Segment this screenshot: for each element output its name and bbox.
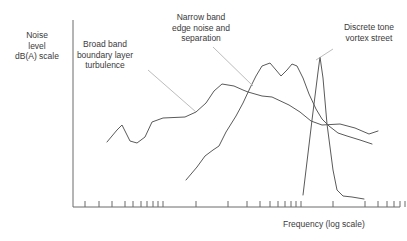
annotation-narrowband: Narrow band edge noise and separation	[155, 12, 247, 44]
noise-spectrum-chart: Noise level dB(A) scale Broad band bound…	[0, 0, 407, 241]
x-axis-label: Frequency (log scale)	[283, 219, 401, 230]
leader-line-broadband	[148, 70, 196, 112]
curve-narrowband-edge-noise-separation	[186, 63, 372, 180]
y-axis-label: Noise level dB(A) scale	[6, 30, 68, 62]
x-axis-tick-group	[85, 201, 405, 207]
leader-line-discrete	[316, 49, 333, 60]
leader-line-narrowband	[213, 47, 253, 86]
annotation-broadband: Broad band boundary layer turbulence	[60, 39, 150, 71]
curve-broadband-boundary-layer-turbulence	[107, 84, 378, 143]
annotation-discrete: Discrete tone vortex street	[334, 22, 404, 43]
